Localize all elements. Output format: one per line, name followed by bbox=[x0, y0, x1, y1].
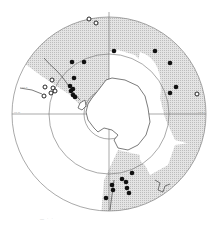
filled-point-marker bbox=[70, 60, 75, 65]
filled-point-marker bbox=[153, 49, 158, 54]
filled-point-marker bbox=[111, 188, 116, 193]
caption: — · · bbox=[40, 216, 54, 221]
meridian-label: 90°W bbox=[14, 111, 21, 114]
filled-point-marker bbox=[125, 186, 130, 191]
open-point-marker bbox=[43, 85, 47, 89]
open-point-marker bbox=[49, 91, 53, 95]
filled-point-marker bbox=[168, 91, 173, 96]
filled-point-marker bbox=[168, 61, 173, 66]
open-point-marker bbox=[42, 94, 46, 98]
filled-point-marker bbox=[130, 171, 135, 176]
filled-point-marker bbox=[73, 95, 78, 100]
filled-point-marker bbox=[69, 89, 74, 94]
filled-point-marker bbox=[174, 85, 179, 90]
open-point-marker bbox=[195, 92, 199, 96]
filled-point-marker bbox=[127, 191, 132, 196]
open-point-marker bbox=[53, 89, 57, 93]
filled-point-marker bbox=[120, 177, 125, 182]
polar-map: 90°W90°E60°S bbox=[0, 0, 218, 227]
filled-point-marker bbox=[82, 60, 87, 65]
filled-point-marker bbox=[72, 76, 77, 81]
meridian-label: 90°E bbox=[198, 111, 204, 114]
filled-point-marker bbox=[104, 196, 109, 201]
open-point-marker bbox=[50, 78, 54, 82]
filled-point-marker bbox=[124, 180, 129, 185]
open-point-marker bbox=[87, 17, 91, 21]
filled-point-marker bbox=[110, 183, 115, 188]
open-point-marker bbox=[94, 21, 98, 25]
meridian-label: 60°S bbox=[22, 86, 28, 89]
filled-point-marker bbox=[112, 49, 117, 54]
